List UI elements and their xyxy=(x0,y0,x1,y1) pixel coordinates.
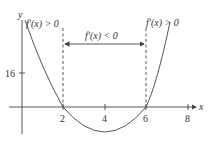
annotation-left-positive: f′(x) > 0 xyxy=(26,18,59,30)
x-tick-label-6: 6 xyxy=(143,113,148,124)
x-tick-label-8: 8 xyxy=(185,113,190,124)
y-axis-label: y xyxy=(17,9,23,20)
annotation-right-positive: f′(x) > 0 xyxy=(146,17,179,29)
derivative-sign-chart: y x 16 2 4 6 8 f′(x) > 0 f′(x) < 0 f′(x)… xyxy=(0,0,213,141)
x-tick-label-4: 4 xyxy=(102,113,107,124)
x-axis-label: x xyxy=(198,101,204,112)
y-tick-label-16: 16 xyxy=(5,68,15,79)
annotation-mid-negative: f′(x) < 0 xyxy=(85,30,118,42)
x-tick-label-2: 2 xyxy=(60,113,65,124)
